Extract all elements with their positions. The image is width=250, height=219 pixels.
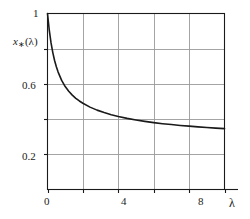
y-tick-label-1: 1 bbox=[33, 8, 39, 19]
y-tick-label-0-6: 0.6 bbox=[22, 80, 36, 91]
data-series-curve bbox=[48, 14, 225, 129]
horizontal-gridlines bbox=[48, 50, 225, 155]
y-axis-title-argument: (λ) bbox=[25, 35, 38, 47]
x-axis-title: λ bbox=[229, 197, 235, 209]
y-axis-title-subscript: ∗ bbox=[18, 40, 25, 49]
y-tick-label-0-2: 0.2 bbox=[22, 151, 36, 162]
plot-frame-border bbox=[48, 14, 225, 190]
vertical-gridlines bbox=[84, 14, 190, 190]
chart-plot-area bbox=[0, 0, 250, 219]
axis-tick-marks bbox=[44, 50, 226, 194]
chart-figure: x∗(λ) λ 1 0.6 0.2 0 4 8 bbox=[0, 0, 250, 219]
x-tick-label-8: 8 bbox=[198, 196, 204, 207]
y-axis-title: x∗(λ) bbox=[13, 36, 38, 49]
x-tick-label-4: 4 bbox=[121, 196, 127, 207]
x-tick-label-0: 0 bbox=[44, 196, 50, 207]
